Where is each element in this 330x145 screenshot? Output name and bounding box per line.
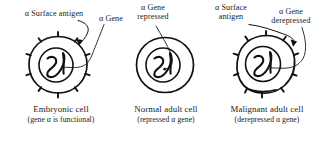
label-a-gene-derepressed: α Gene derepressed [256,7,326,26]
caption-title: Embryonic cell [0,104,122,115]
label-line-2: antigen [219,12,244,21]
leader-dot [163,68,166,71]
label-a-surface-antigen-embryonic: α Surface antigen [6,9,102,18]
nucleus [246,47,281,82]
nucleus [146,48,180,82]
cell-malignant-adult-graphic [234,31,299,98]
leader-a-surface-antigen-1 [76,21,88,46]
caption-subtitle: (gene α is functional) [0,115,122,125]
surface-antigen-marks [234,31,299,98]
alpha-gene-symbol [254,52,271,76]
label-a-gene-repressed: α Gene repressed [120,3,186,22]
label-line-1: α Gene [279,7,303,16]
caption-title: Malignant adult cell [204,104,330,115]
label-line-2: derepressed [271,16,310,25]
nucleus [39,48,73,82]
cell-antigen-diagram: α Surface antigen α Gene α Gene represse… [0,0,330,145]
label-line-2: repressed [137,12,168,21]
label-a-surface-antigen-malignant: α Surface antigen [200,3,262,22]
alpha-gene-symbol [154,53,171,77]
caption-subtitle: (derepressed α gene) [204,115,330,125]
cell-membrane [29,37,87,94]
caption-embryonic-cell: Embryonic cell (gene α is functional) [0,104,122,125]
cell-membrane [137,38,194,93]
label-line-1: α Surface [215,3,247,12]
caption-malignant-adult-cell: Malignant adult cell (derepressed α gene… [204,104,330,125]
membrane-detail [250,90,276,92]
leader-a-gene-1 [65,25,105,68]
cell-normal-adult-graphic [137,38,194,93]
alpha-gene-symbol [47,53,64,77]
label-line-1: α Gene [141,3,165,12]
leader-a-gene-derepressed [272,28,306,69]
